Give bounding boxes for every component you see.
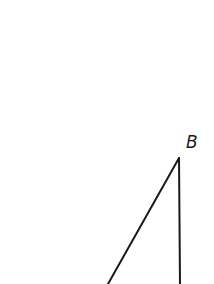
vertex-label-b: B: [186, 134, 198, 151]
hypotenuse-segment: [108, 158, 179, 284]
triangle-diagram: [0, 0, 214, 284]
vertical-side-segment: [179, 158, 180, 284]
